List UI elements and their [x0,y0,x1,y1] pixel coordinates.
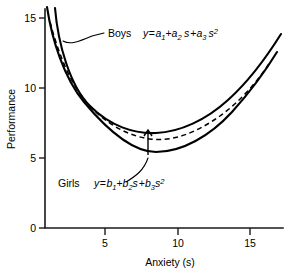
boys-label: Boys [108,27,131,39]
y-tick-label-0: 0 [30,222,36,234]
y-tick-label-10: 10 [24,82,36,94]
boys-eq-equals: = [149,27,155,39]
boys-eq-a3-sub: 3 [202,33,207,42]
chart-figure: 15 10 5 0 5 10 15 Performance Anxiety (s… [0,0,289,271]
boys-eq-s2-sup: 2 [213,27,219,36]
girls-eq-equals: = [100,177,106,189]
y-tick-label-5: 5 [30,152,36,164]
performance-anxiety-chart: 15 10 5 0 5 10 15 Performance Anxiety (s… [0,0,289,271]
boys-eq-a2-sub: 2 [176,33,182,42]
girls-label: Girls [58,177,80,189]
x-tick-label-10: 10 [172,237,184,249]
x-tick-label-5: 5 [102,237,108,249]
girls-equation: y=b1+b2s+b3s2 [93,177,165,192]
girls-curve [47,7,277,152]
girls-eq-s2-sup: 2 [159,177,165,186]
y-axis-title: Performance [5,89,17,149]
boys-annotation: Boys y=a1+a2s+a3s2 [108,27,219,42]
boys-equation: y=a1+a2s+a3s2 [142,27,219,42]
x-axis-title: Anxiety (s) [145,256,195,268]
y-tick-label-15: 15 [24,12,36,24]
boys-eq-s1: s [184,27,190,39]
girls-annotation: Girls y=b1+b2s+b3s2 [58,177,165,192]
chart-axes [45,9,283,228]
x-tick-label-15: 15 [244,237,256,249]
girls-eq-s1: s [133,177,139,189]
boys-leader-line [63,33,104,43]
